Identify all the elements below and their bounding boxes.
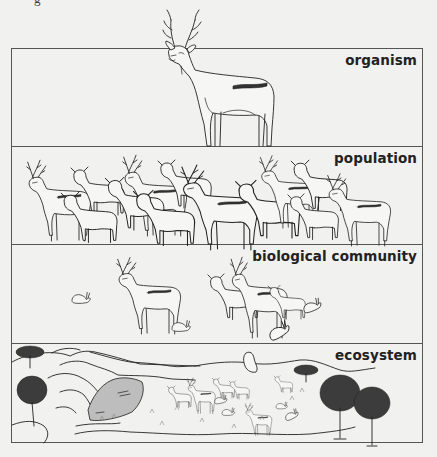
rabbit: [72, 292, 90, 303]
tree: [16, 346, 44, 368]
tree: [294, 365, 318, 382]
community-animals: [72, 257, 323, 341]
ecosystem-landscape: [12, 346, 390, 446]
rabbit: [266, 319, 291, 341]
tree: [354, 387, 390, 446]
organism-deer: [163, 10, 274, 146]
bird: [244, 352, 257, 372]
shaded-rock: [88, 378, 143, 421]
population-herd: [27, 155, 391, 250]
tree: [17, 376, 47, 426]
illustration-layer: [0, 0, 437, 457]
tree: [320, 375, 360, 439]
